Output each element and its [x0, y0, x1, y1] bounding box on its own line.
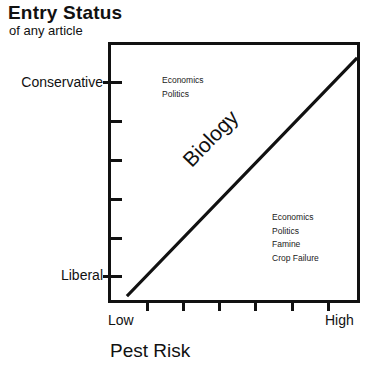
- x-tick-minor-2: [182, 300, 185, 311]
- plot-border-right: [357, 42, 360, 303]
- x-tick-minor-1: [146, 300, 149, 311]
- plot-border-top: [108, 42, 360, 45]
- x-tick-minor-3: [218, 300, 221, 311]
- y-tick-minor-2: [111, 159, 122, 162]
- y-axis-label-conservative: Conservative: [0, 74, 103, 90]
- page-title: Entry Status: [8, 2, 122, 24]
- y-tick-conservative: [103, 81, 122, 84]
- y-axis-label-liberal: Liberal: [0, 267, 103, 283]
- y-tick-minor-4: [111, 237, 122, 240]
- annotation-item: Politics: [162, 88, 204, 102]
- annotation-upper-left: Economics Politics: [162, 74, 204, 101]
- x-axis-label-high: High: [325, 312, 354, 328]
- chart-figure: Entry Status of any article Conservative…: [0, 0, 378, 369]
- y-tick-minor-3: [111, 198, 122, 201]
- annotation-item: Crop Failure: [272, 252, 319, 266]
- plot-area: [108, 42, 360, 303]
- annotation-item: Famine: [272, 238, 319, 252]
- x-axis-label-low: Low: [108, 312, 134, 328]
- annotation-item: Politics: [272, 225, 319, 239]
- y-tick-minor-1: [111, 120, 122, 123]
- y-tick-liberal: [103, 275, 122, 278]
- page-subtitle: of any article: [9, 23, 83, 38]
- annotation-lower-right: Economics Politics Famine Crop Failure: [272, 211, 319, 265]
- annotation-item: Economics: [162, 74, 204, 88]
- x-tick-minor-6: [327, 300, 330, 311]
- x-tick-minor-4: [254, 300, 257, 311]
- x-axis-title: Pest Risk: [110, 340, 190, 362]
- annotation-item: Economics: [272, 211, 319, 225]
- x-tick-minor-5: [291, 300, 294, 311]
